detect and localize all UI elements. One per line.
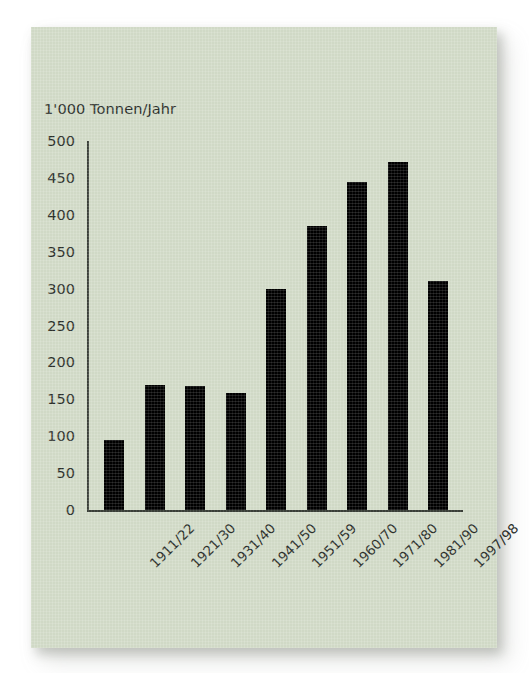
plot-area — [87, 141, 463, 510]
y-tick-label: 250 — [47, 318, 75, 334]
bar — [388, 162, 408, 510]
bar-chart: 1'000 Tonnen/Jahr 5004504003503002502001… — [31, 27, 497, 648]
y-axis-line — [87, 141, 89, 510]
bar — [307, 226, 327, 510]
bar — [185, 386, 205, 510]
y-tick-label: 500 — [47, 133, 75, 149]
y-tick-label: 200 — [47, 354, 75, 370]
y-tick-label: 0 — [66, 502, 75, 518]
bar — [347, 182, 367, 510]
y-axis-title: 1'000 Tonnen/Jahr — [44, 101, 176, 117]
y-tick-label: 450 — [47, 170, 75, 186]
bar — [266, 289, 286, 510]
bar — [145, 385, 165, 510]
bar — [104, 440, 124, 510]
y-tick-label: 350 — [47, 244, 75, 260]
bar — [428, 281, 448, 510]
y-tick-label: 50 — [57, 465, 75, 481]
y-tick-label: 400 — [47, 207, 75, 223]
y-tick-label: 150 — [47, 391, 75, 407]
y-tick-label: 300 — [47, 281, 75, 297]
chart-card: 1'000 Tonnen/Jahr 5004504003503002502001… — [31, 27, 497, 648]
y-tick-label: 100 — [47, 428, 75, 444]
bar — [226, 393, 246, 510]
x-axis-line — [87, 510, 463, 512]
x-tick-label: 1911/22 — [146, 520, 197, 571]
